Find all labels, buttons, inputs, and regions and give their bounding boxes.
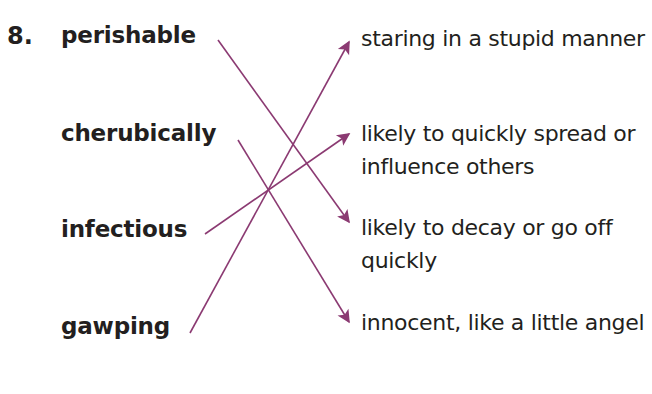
term-gawping[interactable]: gawping	[61, 313, 170, 339]
definition-innocent[interactable]: innocent, like a little angel	[361, 306, 652, 339]
connector-gawping-to-staring	[190, 42, 349, 333]
connector-cherubically-to-innocent	[238, 140, 349, 322]
definition-spread[interactable]: likely to quickly spread or influence ot…	[361, 117, 652, 183]
connector-infectious-to-spread	[205, 134, 349, 234]
definition-decay[interactable]: likely to decay or go off quickly	[361, 211, 652, 277]
term-cherubically[interactable]: cherubically	[61, 120, 216, 146]
term-infectious[interactable]: infectious	[61, 216, 187, 242]
definition-staring[interactable]: staring in a stupid manner	[361, 22, 652, 55]
term-perishable[interactable]: perishable	[61, 22, 196, 48]
connector-perishable-to-decay	[218, 40, 349, 222]
matching-exercise: 8. perishable cherubically infectious ga…	[0, 0, 652, 394]
question-number: 8.	[7, 22, 33, 50]
